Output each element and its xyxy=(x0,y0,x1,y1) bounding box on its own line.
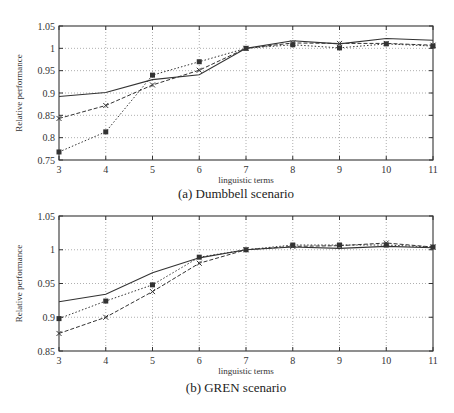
x-axis-label: linguistic terms xyxy=(218,366,274,376)
y-tick-label: 0.75 xyxy=(38,155,56,166)
x-tick-label: 3 xyxy=(57,164,62,175)
data-point-square xyxy=(150,73,155,78)
y-tick-label: 0.9 xyxy=(43,312,56,323)
y-tick-label: 0.95 xyxy=(38,65,56,76)
series-line-solid xyxy=(59,246,433,301)
x-tick-label: 8 xyxy=(290,164,295,175)
y-tick-label: 1.05 xyxy=(38,211,56,222)
x-tick-label: 4 xyxy=(103,355,108,366)
data-point-square xyxy=(290,42,295,47)
y-tick-label: 1.05 xyxy=(38,21,56,32)
y-tick-label: 1 xyxy=(50,43,55,54)
series-line-dotted-square xyxy=(59,245,433,319)
y-tick-label: 1 xyxy=(50,244,55,255)
data-point-square xyxy=(103,129,108,134)
x-tick-label: 9 xyxy=(337,164,342,175)
y-tick-label: 0.8 xyxy=(43,132,56,143)
x-tick-label: 5 xyxy=(150,355,155,366)
x-tick-label: 5 xyxy=(150,164,155,175)
y-tick-label: 0.85 xyxy=(38,110,56,121)
chart-dumbbell: 345678910110.750.80.850.90.9511.05 lingu… xyxy=(14,21,438,202)
data-point-square xyxy=(150,282,155,287)
x-tick-label: 6 xyxy=(197,355,202,366)
chart-gren: 345678910110.850.90.9511.05 linguistic t… xyxy=(14,211,438,396)
y-axis-label: Relative performance xyxy=(14,245,24,323)
chart-caption: (a) Dumbbell scenario xyxy=(178,186,294,201)
y-axis-label: Relative performance xyxy=(14,54,24,132)
x-axis-label: linguistic terms xyxy=(218,175,274,185)
x-tick-label: 7 xyxy=(244,355,249,366)
figure: 345678910110.750.80.850.90.9511.05 lingu… xyxy=(0,0,454,413)
y-tick-label: 0.95 xyxy=(38,278,56,289)
x-tick-label: 8 xyxy=(290,355,295,366)
series-line-dotted-square xyxy=(59,44,433,152)
data-point-square xyxy=(337,45,342,50)
data-point-square xyxy=(384,41,389,46)
x-tick-label: 3 xyxy=(57,355,62,366)
x-tick-label: 4 xyxy=(103,164,108,175)
x-tick-label: 10 xyxy=(381,164,391,175)
y-tick-label: 0.9 xyxy=(43,88,56,99)
data-point-square xyxy=(103,299,108,304)
x-tick-label: 10 xyxy=(381,355,391,366)
x-tick-label: 11 xyxy=(428,355,438,366)
data-point-square xyxy=(197,255,202,260)
y-tick-label: 0.85 xyxy=(38,346,56,357)
chart-caption: (b) GREN scenario xyxy=(186,380,286,395)
data-point-square xyxy=(197,59,202,64)
x-tick-label: 9 xyxy=(337,355,342,366)
x-tick-label: 7 xyxy=(244,164,249,175)
x-tick-label: 6 xyxy=(197,164,202,175)
x-tick-label: 11 xyxy=(428,164,438,175)
data-point-cross xyxy=(150,289,155,294)
data-point-square xyxy=(244,46,249,51)
